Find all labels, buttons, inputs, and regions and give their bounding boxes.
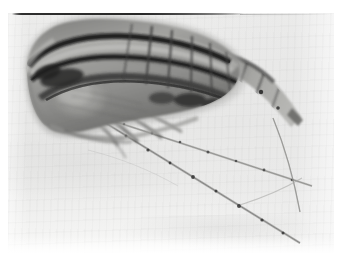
paper-margin-right: [334, 0, 339, 261]
specimen-soft-halo: [27, 17, 248, 138]
antenna-lower: [104, 122, 300, 243]
paper-margin-bottom: [0, 253, 339, 261]
photomicrograph-viewport: [0, 0, 339, 261]
caudal-seta: [273, 118, 300, 212]
paper-margin-left: [0, 0, 8, 261]
paper-margin-top: [0, 0, 339, 13]
top-scan-line-overlay: [12, 13, 244, 15]
copepod-specimen-graphic: [0, 0, 339, 261]
